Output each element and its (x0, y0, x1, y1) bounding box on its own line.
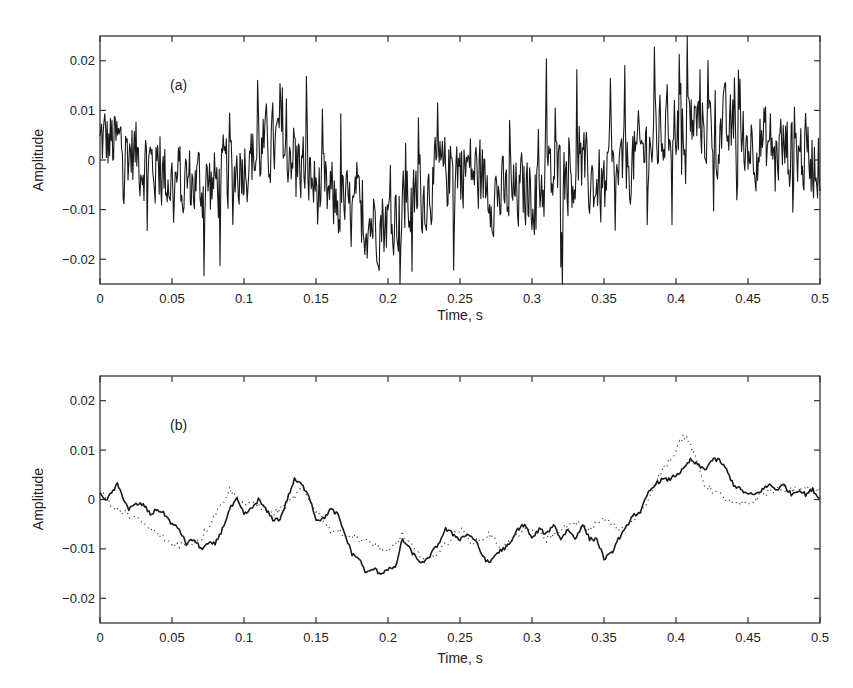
x-tick-label: 0 (96, 630, 103, 645)
panel-label-b: (b) (170, 417, 187, 433)
x-tick-label: 0.5 (811, 630, 829, 645)
series-a (100, 36, 820, 284)
smoothed-signal-line (100, 458, 820, 574)
x-tick-label: 0.4 (667, 291, 685, 306)
x-tick-label: 0 (96, 291, 103, 306)
y-tick-label: −0.02 (62, 252, 95, 267)
y-tick-label: 0 (88, 153, 95, 168)
x-tick-label: 0.3 (523, 291, 541, 306)
y-tick-label: 0.01 (70, 103, 95, 118)
x-tick-label: 0.1 (235, 291, 253, 306)
x-tick-label: 0.15 (303, 291, 328, 306)
chart-panel-a: 00.050.10.150.20.250.30.350.40.450.50.02… (30, 36, 829, 323)
panel-label-a: (a) (170, 77, 187, 93)
y-tick-label: 0.02 (70, 53, 95, 68)
y-tick-label: 0 (88, 492, 95, 507)
y-tick-label: 0.02 (70, 393, 95, 408)
series-b (100, 435, 820, 575)
x-tick-label: 0.05 (159, 630, 184, 645)
y-tick-label: −0.02 (62, 591, 95, 606)
x-tick-label: 0.45 (735, 291, 760, 306)
x-tick-label: 0.5 (811, 291, 829, 306)
x-tick-label: 0.3 (523, 630, 541, 645)
y-tick-label: −0.01 (62, 202, 95, 217)
x-axis-label-a: Time, s (437, 307, 482, 323)
x-tick-label: 0.05 (159, 291, 184, 306)
plot-frame-b (100, 376, 820, 623)
x-tick-label: 0.45 (735, 630, 760, 645)
noisy-signal-line (100, 36, 820, 284)
x-tick-label: 0.35 (591, 291, 616, 306)
x-axis-label-b: Time, s (437, 650, 482, 666)
x-tick-label: 0.25 (447, 630, 472, 645)
y-tick-label: 0.01 (70, 443, 95, 458)
chart-panel-b: 00.050.10.150.20.250.30.350.40.450.50.02… (30, 376, 829, 666)
y-axis-label-b: Amplitude (30, 468, 46, 530)
x-tick-label: 0.1 (235, 630, 253, 645)
x-tick-label: 0.15 (303, 630, 328, 645)
x-tick-label: 0.25 (447, 291, 472, 306)
x-tick-label: 0.2 (379, 630, 397, 645)
x-tick-label: 0.4 (667, 630, 685, 645)
y-tick-label: −0.01 (62, 541, 95, 556)
x-tick-label: 0.2 (379, 291, 397, 306)
y-axis-label-a: Amplitude (30, 129, 46, 191)
x-tick-label: 0.35 (591, 630, 616, 645)
figure: 00.050.10.150.20.250.30.350.40.450.50.02… (0, 0, 853, 688)
